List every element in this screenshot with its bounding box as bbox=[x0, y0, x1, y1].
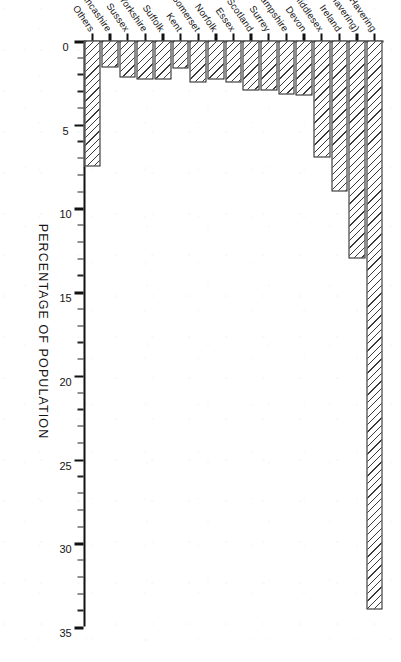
value-tick-minor bbox=[77, 157, 83, 158]
category-tick bbox=[126, 33, 128, 40]
category-tick bbox=[108, 33, 110, 40]
value-tick-minor bbox=[77, 191, 83, 192]
value-tick-major bbox=[74, 40, 83, 43]
category-tick bbox=[91, 33, 93, 40]
value-tick-minor bbox=[77, 174, 83, 175]
category-tick bbox=[355, 33, 357, 40]
plot-area: 05101520253035 HaveringKent (ex. Haverin… bbox=[83, 40, 383, 626]
bar bbox=[260, 40, 277, 90]
value-tick-minor bbox=[77, 526, 83, 527]
value-tick-major bbox=[74, 207, 83, 210]
value-tick-major bbox=[74, 542, 83, 545]
bar bbox=[84, 40, 101, 166]
bar bbox=[366, 40, 383, 609]
value-axis-title: PERCENTAGE OF POPULATION bbox=[35, 0, 49, 662]
category-tick bbox=[161, 33, 163, 40]
value-tick-minor bbox=[77, 442, 83, 443]
value-tick-minor bbox=[77, 509, 83, 510]
value-tick-minor bbox=[77, 57, 83, 58]
value-tick-minor bbox=[77, 90, 83, 91]
value-tick-label: 0 bbox=[62, 40, 68, 52]
category-tick bbox=[373, 33, 375, 40]
category-tick bbox=[249, 33, 251, 40]
value-tick-label: 15 bbox=[59, 291, 71, 303]
value-tick-minor bbox=[77, 492, 83, 493]
value-tick-minor bbox=[77, 308, 83, 309]
value-tick-minor bbox=[77, 140, 83, 141]
bar bbox=[207, 40, 224, 79]
value-tick-minor bbox=[77, 73, 83, 74]
category-tick bbox=[302, 33, 304, 40]
bar bbox=[136, 40, 153, 79]
value-tick-minor bbox=[77, 341, 83, 342]
bar-chart-figure: 05101520253035 HaveringKent (ex. Haverin… bbox=[0, 0, 401, 662]
value-tick-minor bbox=[77, 593, 83, 594]
value-tick-minor bbox=[77, 475, 83, 476]
value-tick-minor bbox=[77, 107, 83, 108]
value-tick-major bbox=[74, 124, 83, 127]
value-tick-label: 5 bbox=[62, 124, 68, 136]
bar bbox=[348, 40, 365, 258]
value-tick-minor bbox=[77, 559, 83, 560]
value-tick-label: 25 bbox=[59, 459, 71, 471]
category-tick bbox=[320, 33, 322, 40]
value-tick-minor bbox=[77, 576, 83, 577]
value-tick-minor bbox=[77, 274, 83, 275]
bar bbox=[331, 40, 348, 191]
bar-series bbox=[83, 40, 383, 626]
value-tick-label: 35 bbox=[59, 626, 71, 638]
bar bbox=[101, 40, 118, 67]
value-tick-major bbox=[74, 626, 83, 629]
bar bbox=[225, 40, 242, 82]
category-tick bbox=[144, 33, 146, 40]
rotated-figure-wrapper: 05101520253035 HaveringKent (ex. Haverin… bbox=[0, 0, 401, 662]
value-tick-minor bbox=[77, 609, 83, 610]
category-tick bbox=[179, 33, 181, 40]
bar bbox=[295, 40, 312, 95]
value-tick-minor bbox=[77, 408, 83, 409]
value-tick-major bbox=[74, 375, 83, 378]
value-tick-minor bbox=[77, 358, 83, 359]
category-tick bbox=[214, 33, 216, 40]
category-tick bbox=[267, 33, 269, 40]
bar bbox=[189, 40, 206, 82]
value-tick-minor bbox=[77, 392, 83, 393]
bar bbox=[154, 40, 171, 79]
value-tick-minor bbox=[77, 224, 83, 225]
value-tick-minor bbox=[77, 325, 83, 326]
value-tick-minor bbox=[77, 241, 83, 242]
value-tick-major bbox=[74, 459, 83, 462]
bar bbox=[119, 40, 136, 77]
value-tick-minor bbox=[77, 425, 83, 426]
category-tick bbox=[197, 33, 199, 40]
category-tick bbox=[285, 33, 287, 40]
bar bbox=[313, 40, 330, 157]
bar bbox=[278, 40, 295, 94]
value-tick-label: 30 bbox=[59, 542, 71, 554]
category-tick bbox=[338, 33, 340, 40]
chart-screenshot: 05101520253035 HaveringKent (ex. Haverin… bbox=[0, 0, 401, 662]
value-tick-label: 10 bbox=[59, 207, 71, 219]
value-tick-major bbox=[74, 291, 83, 294]
bar bbox=[172, 40, 189, 68]
category-tick bbox=[232, 33, 234, 40]
value-tick-minor bbox=[77, 258, 83, 259]
bar bbox=[242, 40, 259, 90]
value-tick-label: 20 bbox=[59, 375, 71, 387]
